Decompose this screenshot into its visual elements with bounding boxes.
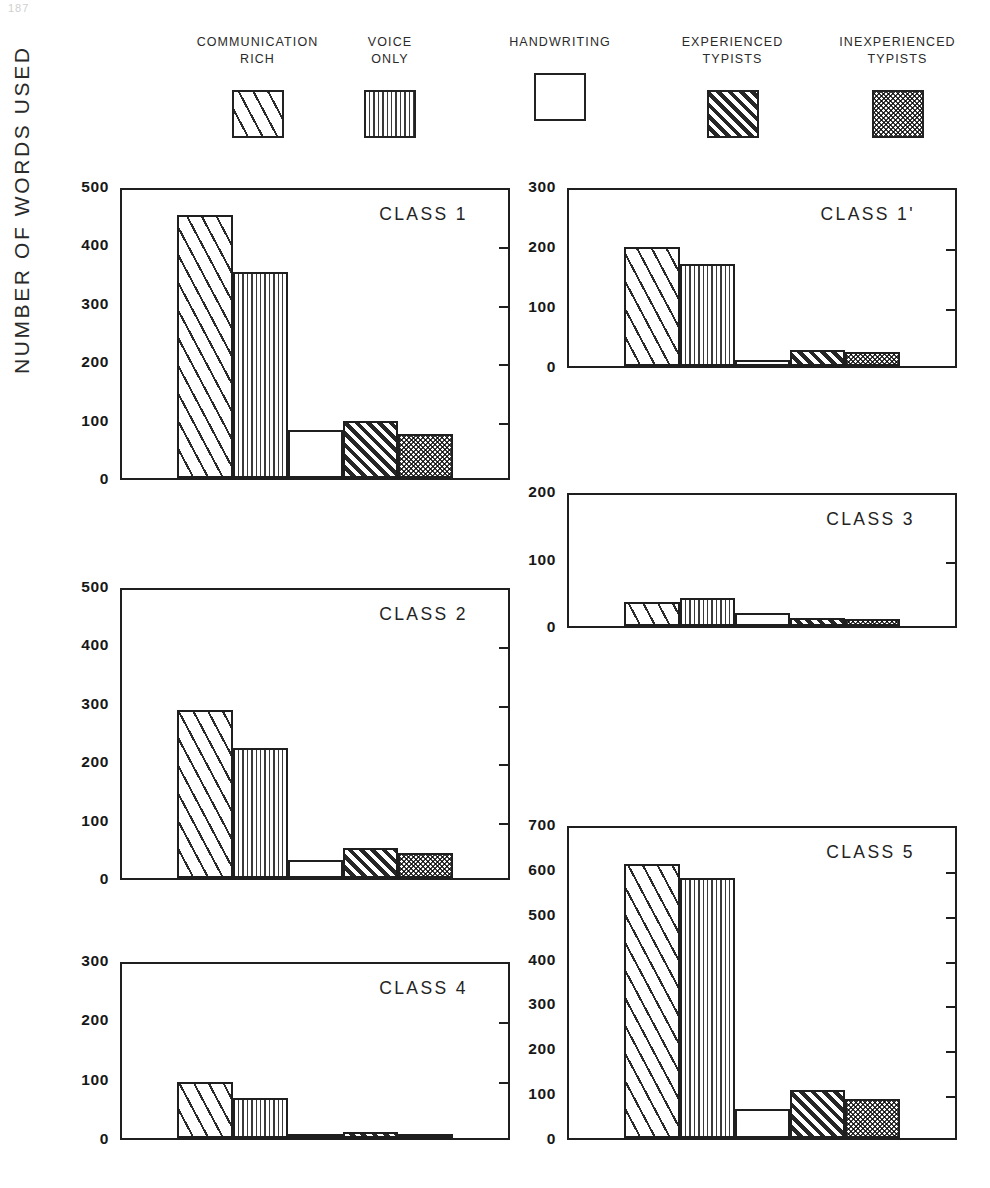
y-axis-tick-label: 300 — [81, 695, 109, 713]
bar — [845, 619, 900, 626]
y-axis-tick-label: 0 — [547, 1130, 556, 1148]
chart-panel: 0100200300CLASS 4 — [65, 962, 510, 1140]
y-axis-tick-label: 100 — [528, 1085, 556, 1103]
y-axis-tick-label: 500 — [528, 906, 556, 924]
y-axis-right-tick-mark — [499, 306, 508, 308]
bar — [398, 434, 453, 478]
panel-title: CLASS 1' — [820, 204, 915, 225]
bar — [288, 430, 343, 478]
bar — [735, 360, 790, 366]
chart-panel: 0100200300CLASS 1' — [512, 188, 957, 368]
y-axis-tick-label: 100 — [81, 1071, 109, 1089]
bar — [790, 350, 845, 366]
legend-swatch-icon — [232, 90, 284, 138]
legend-item-label: VOICE ONLY — [335, 34, 445, 68]
bar — [398, 1134, 453, 1138]
y-axis-right-tick-mark — [499, 1082, 508, 1084]
y-axis-tick-label: 600 — [528, 861, 556, 879]
y-axis-tick-label: 0 — [547, 618, 556, 636]
legend-item: VOICE ONLY — [335, 34, 445, 138]
bar — [233, 1098, 288, 1138]
y-axis-tick-label: 500 — [81, 178, 109, 196]
legend-item-label: EXPERIENCED TYPISTS — [655, 34, 810, 68]
y-axis-tick-label: 300 — [528, 995, 556, 1013]
y-axis-tick-label: 200 — [528, 483, 556, 501]
y-axis-tick-label: 300 — [81, 295, 109, 313]
y-axis-tick-label: 0 — [547, 358, 556, 376]
bar — [177, 710, 232, 878]
bar — [790, 618, 845, 626]
y-axis-right-tick-mark — [499, 247, 508, 249]
y-axis-right-tick-mark — [499, 364, 508, 366]
y-axis-right-tick-mark — [946, 1096, 955, 1098]
y-axis-right-tick-mark — [946, 562, 955, 564]
bar — [845, 352, 900, 366]
y-axis-right-tick-mark — [946, 1051, 955, 1053]
y-axis-tick-label: 100 — [528, 298, 556, 316]
y-axis-right-tick-mark — [499, 423, 508, 425]
y-axis-right-tick-mark — [946, 962, 955, 964]
y-axis-right-tick-mark — [946, 249, 955, 251]
bar — [680, 878, 735, 1138]
y-axis-tick-label: 200 — [528, 1040, 556, 1058]
y-axis-tick-label: 200 — [528, 238, 556, 256]
legend-swatch-icon — [707, 90, 759, 138]
y-axis-right-tick-mark — [946, 917, 955, 919]
y-axis-tick-label: 100 — [81, 412, 109, 430]
plot-area: CLASS 5 — [567, 826, 957, 1140]
bar — [177, 215, 232, 478]
plot-area: CLASS 2 — [120, 588, 510, 880]
bar — [343, 848, 398, 878]
legend-item: INEXPERIENCED TYPISTS — [815, 34, 980, 138]
bar — [233, 272, 288, 478]
y-axis-tick-label: 700 — [528, 816, 556, 834]
y-axis-right-tick-mark — [946, 1006, 955, 1008]
bar — [624, 247, 679, 366]
y-axis-tick-label: 400 — [81, 236, 109, 254]
y-axis-right-tick-mark — [499, 647, 508, 649]
y-axis-tick-label: 0 — [100, 870, 109, 888]
chart-panel: 0100200300400500CLASS 1 — [65, 188, 510, 480]
y-axis-tick-label: 0 — [100, 470, 109, 488]
panel-title: CLASS 5 — [826, 842, 915, 863]
plot-area: CLASS 1 — [120, 188, 510, 480]
y-axis-right-tick-mark — [946, 872, 955, 874]
y-axis-tick-label: 0 — [100, 1130, 109, 1148]
legend-item: HANDWRITING — [485, 34, 635, 121]
chart-panel: 0100200300400500CLASS 2 — [65, 588, 510, 880]
bar — [735, 613, 790, 627]
y-axis-tick-label: 200 — [81, 1011, 109, 1029]
plot-area: CLASS 3 — [567, 493, 957, 628]
bar — [288, 860, 343, 878]
y-axis-right-tick-mark — [499, 706, 508, 708]
bar — [680, 598, 735, 626]
y-axis-tick-label: 300 — [81, 952, 109, 970]
y-axis-tick-label: 100 — [528, 551, 556, 569]
bar — [398, 853, 453, 878]
y-axis-tick-label: 200 — [81, 353, 109, 371]
y-axis-tick-label: 300 — [528, 178, 556, 196]
legend-item-label: HANDWRITING — [485, 34, 635, 51]
y-axis-tick-label: 400 — [81, 636, 109, 654]
legend-item: COMMUNICATION RICH — [170, 34, 345, 138]
y-axis-right-tick-mark — [499, 823, 508, 825]
panel-title: CLASS 3 — [826, 509, 915, 530]
y-axis-tick-label: 500 — [81, 578, 109, 596]
panel-title: CLASS 1 — [379, 204, 468, 225]
y-axis-right-tick-mark — [499, 1022, 508, 1024]
y-axis-right-tick-mark — [499, 764, 508, 766]
bar — [680, 264, 735, 366]
bar — [233, 748, 288, 878]
bar — [845, 1099, 900, 1138]
bar — [624, 602, 679, 626]
legend-swatch-icon — [364, 90, 416, 138]
bar — [735, 1109, 790, 1138]
legend-item: EXPERIENCED TYPISTS — [655, 34, 810, 138]
plot-area: CLASS 1' — [567, 188, 957, 368]
panel-title: CLASS 2 — [379, 604, 468, 625]
y-axis-title: NUMBER OF WORDS USED — [10, 0, 34, 374]
plot-area: CLASS 4 — [120, 962, 510, 1140]
y-axis-tick-label: 400 — [528, 951, 556, 969]
legend-item-label: INEXPERIENCED TYPISTS — [815, 34, 980, 68]
bar — [790, 1090, 845, 1138]
